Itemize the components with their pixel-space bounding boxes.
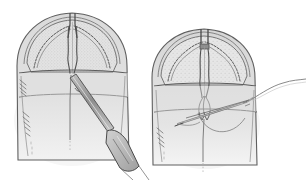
band-wash-2 (154, 86, 256, 112)
surgical-figure: Cleft palate two-stage repair illustrati… (0, 0, 306, 180)
illustration-canvas (0, 0, 306, 180)
